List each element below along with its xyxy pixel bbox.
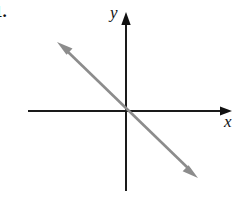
coordinate-plane-svg — [0, 0, 245, 199]
x-axis-label: x — [224, 112, 232, 132]
graph-figure: 1. y x — [0, 0, 245, 199]
y-axis-arrow-icon — [121, 12, 130, 25]
y-axis-label: y — [110, 3, 118, 23]
line-arrow-lower-right-icon — [183, 165, 198, 178]
